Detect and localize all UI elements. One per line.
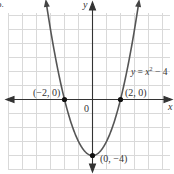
- y-axis-up-arrow-icon: [90, 2, 96, 10]
- curve-right-arrow-icon: [135, 0, 141, 7]
- axes: [6, 2, 172, 172]
- curve-left-arrow-icon: [44, 0, 50, 7]
- origin-label: 0: [84, 103, 89, 114]
- point-label-2-0: (2, 0): [125, 87, 147, 99]
- x-axis-left-arrow-icon: [6, 97, 14, 103]
- point-label-0-neg4: (0, −4): [100, 153, 127, 165]
- parabola-graph: b. y x 0 (−2, 0) (2, 0) (0, −4) y = x2 −…: [0, 0, 174, 174]
- point-2-0: [118, 97, 123, 102]
- equation-label: y = x2 − 4: [130, 66, 168, 77]
- x-axis-label: x: [167, 101, 173, 112]
- corner-fragment: b.: [0, 0, 4, 9]
- point-label-neg2-0: (−2, 0): [33, 87, 60, 99]
- equation-eq: =: [135, 67, 145, 77]
- point-0-neg4: [90, 153, 95, 158]
- equation-suffix: − 4: [153, 67, 168, 77]
- point-neg2-0: [62, 97, 67, 102]
- y-axis-down-arrow-icon: [90, 164, 96, 172]
- y-axis-label: y: [82, 0, 88, 10]
